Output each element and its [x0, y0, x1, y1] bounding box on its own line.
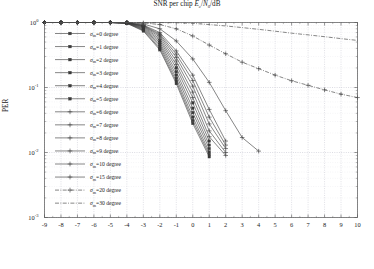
per-vs-snr-chart: -9-8-7-6-5-4-3-2-101234567891010010-110-…	[0, 0, 374, 269]
x-tick-label: 5	[274, 221, 277, 228]
x-tick-label: 3	[241, 221, 244, 228]
x-tick-label: -6	[91, 221, 96, 228]
y-tick-label: 10-2	[28, 148, 38, 156]
x-tick-label: -7	[75, 221, 81, 228]
y-tick-label: 10-3	[28, 213, 39, 221]
x-tick-label: -8	[58, 221, 63, 228]
x-tick-label: -2	[157, 221, 162, 228]
x-tick-label: 0	[191, 221, 194, 228]
x-tick-label: 10	[354, 221, 360, 228]
x-tick-label: -5	[108, 221, 113, 228]
y-tick-label: 10-1	[28, 83, 38, 91]
y-tick-label: 100	[30, 18, 39, 26]
x-tick-label: 4	[257, 221, 261, 228]
x-tick-label: 6	[290, 221, 293, 228]
x-tick-label: 1	[208, 221, 211, 228]
x-tick-label: 9	[339, 221, 342, 228]
x-tick-label: 8	[323, 221, 326, 228]
x-tick-label: -1	[174, 221, 179, 228]
x-tick-label: -4	[124, 221, 130, 228]
figure-panel: -9-8-7-6-5-4-3-2-101234567891010010-110-…	[0, 0, 374, 269]
x-tick-label: -9	[42, 221, 47, 228]
x-tick-label: 7	[306, 221, 310, 228]
y-axis-label: PER	[2, 99, 10, 112]
x-tick-label: 2	[224, 221, 227, 228]
x-tick-label: -3	[141, 221, 146, 228]
